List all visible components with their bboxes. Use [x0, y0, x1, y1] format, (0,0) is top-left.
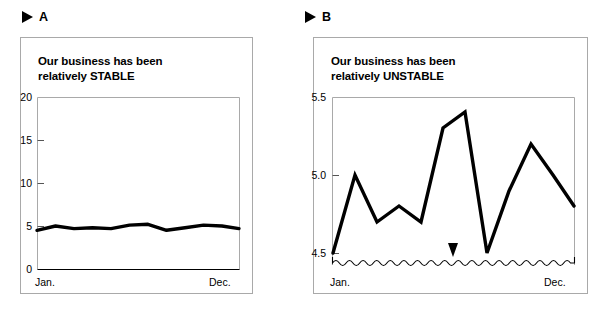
panel-a-ytick-5: 5: [10, 221, 32, 232]
panel-a-ytick-20: 20: [10, 92, 32, 103]
panel-b-xtick-jan: Jan.: [330, 277, 350, 288]
panel-b-break-caret: [448, 243, 458, 257]
panel-b-title: Our business has been relatively UNSTABL…: [331, 54, 455, 84]
panel-a-card: Our business has been relatively STABLE …: [20, 37, 253, 294]
panel-b-marker: B: [305, 9, 331, 25]
panel-b: B Our business has been relatively UNSTA…: [300, 0, 605, 317]
panel-a-svg: [37, 97, 240, 270]
right-triangle-icon: [305, 11, 316, 23]
panel-b-plot: 5.5 5.0 4.5 Jan. Dec.: [332, 97, 575, 269]
panel-b-xtick-dec: Dec.: [544, 277, 566, 288]
panel-b-letter: B: [322, 11, 331, 24]
panel-b-ytick-50: 5.0: [302, 170, 326, 181]
right-triangle-icon: [22, 11, 33, 23]
panel-a-title: Our business has been relatively STABLE: [38, 54, 162, 84]
panel-b-axis-break-squiggle: [333, 257, 575, 266]
panel-a-letter: A: [39, 11, 48, 24]
panel-b-ytick-55: 5.5: [302, 92, 326, 103]
figure-root: A Our business has been relatively STABL…: [0, 0, 605, 317]
panel-b-data-line: [333, 112, 574, 253]
panel-a-ytick-15: 15: [10, 135, 32, 146]
panel-b-svg: [332, 97, 575, 270]
panel-b-card: Our business has been relatively UNSTABL…: [313, 37, 588, 294]
panel-b-ytick-45: 4.5: [302, 248, 326, 259]
panel-b-frame: [333, 98, 575, 266]
panel-a-frame: [38, 98, 240, 270]
panel-a-ytick-0: 0: [10, 264, 32, 275]
panel-a-xtick-jan: Jan.: [35, 277, 55, 288]
panel-a-ytick-10: 10: [10, 178, 32, 189]
panel-a-data-line: [37, 224, 239, 230]
panel-a-xtick-dec: Dec.: [209, 277, 231, 288]
panel-a-marker: A: [22, 9, 48, 25]
panel-a: A Our business has been relatively STABL…: [0, 0, 300, 317]
panel-a-plot: 20 15 10 5 0 Jan. Dec.: [37, 97, 240, 269]
